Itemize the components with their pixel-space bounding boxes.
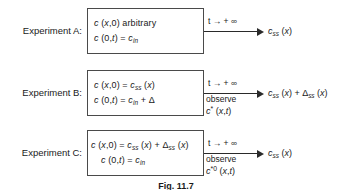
experiment-a-arrow-group: t → + ∞: [204, 8, 266, 54]
experiment-b-conditions-box: c (x,0) = css (x) c (0,t) = cin + Δ: [87, 70, 204, 116]
experiment-b-label: Experiment B:: [0, 87, 82, 98]
experiment-c-observe-symbol: c*0 (x,t): [206, 165, 236, 178]
experiment-a-boundary-condition: c (0,t) = cin: [94, 31, 203, 46]
experiment-c-output: css (x): [268, 147, 292, 160]
experiment-c-boundary-condition: c (0,t) = cin: [91, 153, 203, 168]
experiment-a-output: css (x): [268, 25, 292, 38]
arrow-head-icon: [257, 150, 264, 158]
experiment-c-observe-word: observe: [206, 154, 236, 165]
experiment-a-conditions-box: c (x,0) arbitrary c (0,t) = cin: [87, 8, 204, 54]
arrow-head-icon: [257, 28, 264, 36]
experiment-b-observe-symbol: c* (x,t): [206, 105, 236, 118]
experiment-a-arrow-label: t → + ∞: [208, 16, 237, 26]
experiment-flow-diagram: Experiment A: c (x,0) arbitrary c (0,t) …: [0, 0, 352, 190]
arrow-line-icon: [204, 31, 258, 32]
experiment-c-initial-condition: c (x,0) = css (x) + Δss (x): [91, 138, 203, 153]
experiment-a-initial-condition: c (x,0) arbitrary: [94, 16, 203, 31]
experiment-a-label: Experiment A:: [0, 25, 82, 36]
experiment-c-arrow-label: t → + ∞: [208, 138, 237, 148]
experiment-b-arrow-label: t → + ∞: [208, 78, 237, 88]
experiment-c-label: Experiment C:: [0, 147, 82, 158]
arrow-head-icon: [257, 90, 264, 98]
experiment-c-conditions-box: c (x,0) = css (x) + Δss (x) c (0,t) = ci…: [87, 130, 204, 176]
experiment-b-observe-block: observe c* (x,t): [206, 94, 236, 118]
experiment-c-observe-block: observe c*0 (x,t): [206, 154, 236, 178]
experiment-b-initial-condition: c (x,0) = css (x): [94, 78, 203, 93]
experiment-b-boundary-condition: c (0,t) = cin + Δ: [94, 93, 203, 108]
experiment-b-output: css (x) + Δss (x): [268, 87, 328, 100]
experiment-c-arrow-group: t → + ∞ observe c*0 (x,t): [204, 130, 266, 176]
experiment-b-observe-word: observe: [206, 94, 236, 105]
experiment-b-arrow-group: t → + ∞ observe c* (x,t): [204, 70, 266, 116]
figure-caption: Fig. 11.7: [0, 181, 352, 190]
